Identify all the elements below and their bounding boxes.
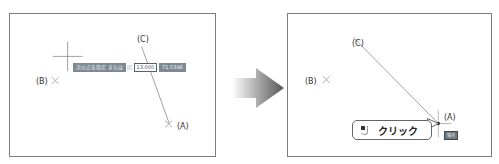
snap-badge: 端点 bbox=[444, 131, 458, 140]
left-drawing-canvas[interactable]: (C) (B) (A) 次の点を指定 または 13.000 71.5348 bbox=[9, 13, 216, 157]
transition-arrow-icon bbox=[232, 68, 284, 108]
right-drawing-canvas[interactable]: (C) (B) (A) 端点 クリック bbox=[287, 13, 492, 157]
angle-value: 71.5348 bbox=[159, 63, 186, 72]
label-b: (B) bbox=[305, 77, 317, 86]
label-c: (C) bbox=[352, 39, 364, 48]
drawn-line bbox=[354, 38, 439, 124]
click-callout: クリック bbox=[352, 120, 432, 140]
point-b-marker-icon bbox=[323, 76, 330, 83]
length-input[interactable]: 13.000 bbox=[134, 63, 158, 72]
mouse-left-click-icon bbox=[361, 126, 368, 135]
label-b: (B) bbox=[36, 77, 48, 86]
dynamic-input-tooltip: 次の点を指定 または 13.000 71.5348 bbox=[73, 63, 186, 72]
tooltip-prompt: 次の点を指定 または bbox=[73, 63, 126, 72]
label-a: (A) bbox=[177, 122, 189, 131]
point-b-marker-icon bbox=[52, 77, 59, 84]
rubber-band-line bbox=[142, 47, 170, 124]
label-c: (C) bbox=[137, 35, 149, 44]
options-down-icon[interactable] bbox=[127, 65, 132, 70]
label-a: (A) bbox=[444, 113, 456, 122]
callout-text: クリック bbox=[378, 123, 418, 138]
